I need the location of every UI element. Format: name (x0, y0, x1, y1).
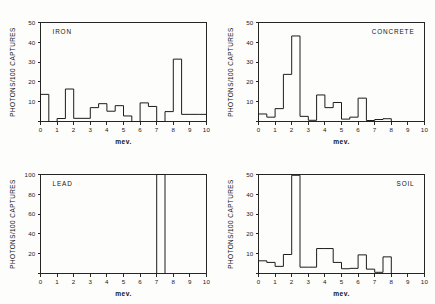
y-tick-label: 40 (246, 39, 254, 46)
x-tick-label: 5 (122, 126, 126, 133)
x-tick-label: 6 (138, 278, 142, 285)
x-tick-label: 0 (257, 126, 261, 133)
chart-panel-iron: 0123456789101020304050mev.PHOTONS/100 CA… (0, 0, 217, 152)
x-tick-label: 9 (188, 278, 192, 285)
x-tick-label: 4 (323, 126, 327, 133)
chart-svg-concrete: 0123456789101020304050mev.PHOTONS/100 CA… (218, 0, 435, 152)
y-tick-label: 40 (28, 39, 36, 46)
x-tick-label: 5 (340, 278, 344, 285)
x-tick-label: 10 (203, 278, 211, 285)
y-tick-label: 30 (246, 58, 254, 65)
x-tick-label: 4 (105, 278, 109, 285)
y-tick-label: 10 (28, 98, 36, 105)
y-tick-label: 20 (246, 230, 254, 237)
y-tick-label: 20 (28, 78, 36, 85)
x-tick-label: 1 (55, 126, 59, 133)
x-tick-label: 8 (389, 278, 393, 285)
panel-title: SOIL (397, 180, 415, 187)
x-tick-label: 0 (39, 126, 43, 133)
x-tick-label: 9 (406, 126, 410, 133)
y-axis-title: PHOTONS/100 CAPTURES (227, 179, 234, 269)
x-tick-label: 8 (389, 126, 393, 133)
y-tick-label: 100 (25, 171, 36, 178)
x-tick-label: 1 (273, 126, 277, 133)
x-axis-title: mev. (115, 138, 132, 145)
x-axis-title: mev. (115, 290, 132, 297)
chart-svg-soil: 0123456789101020304050mev.PHOTONS/100 CA… (218, 152, 435, 304)
x-tick-label: 7 (155, 126, 159, 133)
x-tick-label: 8 (171, 278, 175, 285)
x-tick-label: 4 (323, 278, 327, 285)
chart-svg-iron: 0123456789101020304050mev.PHOTONS/100 CA… (0, 0, 217, 152)
x-tick-label: 7 (155, 278, 159, 285)
y-tick-label: 60 (28, 210, 36, 217)
chart-panel-lead: 01234567891020406080100mev.PHOTONS/100 C… (0, 152, 217, 304)
y-axis-title: PHOTONS/100 CAPTURES (227, 27, 234, 117)
y-tick-label: 50 (246, 171, 254, 178)
y-axis-title: PHOTONS/100 CAPTURES (9, 27, 16, 117)
x-tick-label: 0 (39, 278, 43, 285)
x-tick-label: 7 (373, 278, 377, 285)
y-tick-label: 30 (246, 210, 254, 217)
x-tick-label: 10 (203, 126, 211, 133)
y-tick-label: 20 (246, 78, 254, 85)
gamma-capture-spectra-figure: 0123456789101020304050mev.PHOTONS/100 CA… (0, 0, 435, 304)
x-tick-label: 8 (171, 126, 175, 133)
x-tick-label: 6 (356, 126, 360, 133)
panel-title: CONCRETE (372, 28, 415, 35)
y-tick-label: 10 (246, 98, 254, 105)
x-tick-label: 9 (188, 126, 192, 133)
x-axis-title: mev. (333, 290, 350, 297)
y-tick-label: 50 (246, 19, 254, 26)
x-tick-label: 2 (72, 278, 76, 285)
y-tick-label: 40 (246, 191, 254, 198)
x-axis-title: mev. (333, 138, 350, 145)
panel-title: LEAD (53, 180, 73, 187)
x-tick-label: 2 (290, 278, 294, 285)
histogram-step-curve (41, 59, 207, 121)
chart-panel-concrete: 0123456789101020304050mev.PHOTONS/100 CA… (218, 0, 435, 152)
x-tick-label: 10 (421, 278, 429, 285)
y-tick-label: 10 (246, 250, 254, 257)
y-tick-label: 30 (28, 58, 36, 65)
y-tick-label: 20 (28, 250, 36, 257)
histogram-step-curve (157, 175, 165, 274)
x-tick-label: 2 (290, 126, 294, 133)
x-tick-label: 7 (373, 126, 377, 133)
histogram-step-curve (259, 36, 400, 122)
x-tick-label: 5 (340, 126, 344, 133)
y-tick-label: 50 (28, 19, 36, 26)
x-tick-label: 6 (138, 126, 142, 133)
chart-panel-soil: 0123456789101020304050mev.PHOTONS/100 CA… (218, 152, 435, 304)
x-tick-label: 3 (306, 278, 310, 285)
x-tick-label: 10 (421, 126, 429, 133)
histogram-step-curve (259, 175, 400, 273)
x-tick-label: 3 (306, 126, 310, 133)
x-tick-label: 3 (88, 278, 92, 285)
x-tick-label: 2 (72, 126, 76, 133)
y-tick-label: 40 (28, 230, 36, 237)
x-tick-label: 1 (55, 278, 59, 285)
x-tick-label: 3 (88, 126, 92, 133)
y-axis-title: PHOTONS/100 CAPTURES (9, 179, 16, 269)
x-tick-label: 1 (273, 278, 277, 285)
x-tick-label: 6 (356, 278, 360, 285)
chart-svg-lead: 01234567891020406080100mev.PHOTONS/100 C… (0, 152, 217, 304)
x-tick-label: 4 (105, 126, 109, 133)
plot-frame (41, 175, 207, 274)
panel-title: IRON (53, 28, 72, 35)
x-tick-label: 0 (257, 278, 261, 285)
y-tick-label: 80 (28, 191, 36, 198)
x-tick-label: 9 (406, 278, 410, 285)
x-tick-label: 5 (122, 278, 126, 285)
